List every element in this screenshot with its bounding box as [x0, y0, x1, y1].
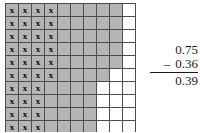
grid-cell-shaded — [45, 95, 58, 108]
grid-cell-shaded — [71, 4, 84, 17]
x-mark-icon: x — [32, 18, 44, 28]
grid-cell-marked: x — [6, 108, 19, 121]
grid-cell-marked: x — [19, 4, 32, 17]
grid-cell-marked: x — [32, 69, 45, 82]
grid-cell-marked: x — [6, 69, 19, 82]
x-mark-icon: x — [32, 109, 44, 119]
x-mark-icon: x — [6, 18, 18, 28]
x-mark-icon: x — [45, 44, 57, 54]
grid-row: xxxx — [6, 56, 136, 69]
grid-cell-shaded — [84, 4, 97, 17]
grid-cell-shaded — [71, 69, 84, 82]
grid-cell-marked: x — [45, 17, 58, 30]
grid-cell-shaded — [45, 108, 58, 121]
grid-cell-marked: x — [6, 43, 19, 56]
grid-cell-empty — [123, 121, 136, 133]
x-mark-icon: x — [45, 5, 57, 15]
grid-cell-shaded — [110, 4, 123, 17]
grid-cell-shaded — [84, 121, 97, 133]
x-mark-icon: x — [6, 83, 18, 93]
grid-cell-marked: x — [19, 82, 32, 95]
x-mark-icon: x — [32, 70, 44, 80]
decimal-subtraction-figure: xxxxxxxxxxxxxxxxxxxxxxxxxxxxxxxxxxxx 0.7… — [0, 0, 200, 132]
x-mark-icon: x — [45, 70, 57, 80]
grid-cell-shaded — [58, 95, 71, 108]
grid-cell-shaded — [71, 108, 84, 121]
grid-cell-marked: x — [32, 108, 45, 121]
grid-cell-marked: x — [19, 56, 32, 69]
grid-cell-shaded — [71, 82, 84, 95]
grid-cell-empty — [123, 69, 136, 82]
x-mark-icon: x — [32, 122, 44, 132]
grid-cell-shaded — [71, 95, 84, 108]
grid-cell-marked: x — [6, 4, 19, 17]
difference-row: 0.39 — [150, 74, 198, 88]
difference-value: 0.39 — [175, 74, 198, 88]
x-mark-icon: x — [6, 31, 18, 41]
grid-cell-marked: x — [6, 30, 19, 43]
grid-cell-shaded — [71, 56, 84, 69]
x-mark-icon: x — [6, 122, 18, 132]
grid-cell-shaded — [97, 69, 110, 82]
grid-cell-empty — [110, 121, 123, 133]
grid-cell-empty — [97, 95, 110, 108]
x-mark-icon: x — [45, 18, 57, 28]
grid-cell-marked: x — [45, 56, 58, 69]
grid-cell-marked: x — [32, 4, 45, 17]
x-mark-icon: x — [19, 109, 31, 119]
grid-cell-shaded — [71, 17, 84, 30]
grid-cell-shaded — [84, 17, 97, 30]
grid-cell-marked: x — [32, 43, 45, 56]
grid-row: xxx — [6, 95, 136, 108]
grid-cell-shaded — [45, 121, 58, 133]
grid-cell-empty — [110, 108, 123, 121]
grid-cell-shaded — [71, 30, 84, 43]
x-mark-icon: x — [6, 70, 18, 80]
grid-cell-empty — [123, 4, 136, 17]
subtrahend-row: – 0.36 — [150, 57, 198, 71]
grid-cell-marked: x — [6, 121, 19, 133]
grid-cell-empty — [123, 82, 136, 95]
grid-cell-marked: x — [6, 82, 19, 95]
x-mark-icon: x — [19, 96, 31, 106]
grid-cell-shaded — [58, 43, 71, 56]
x-mark-icon: x — [32, 96, 44, 106]
grid-cell-marked: x — [19, 121, 32, 133]
grid-cell-shaded — [58, 56, 71, 69]
grid-cell-shaded — [58, 17, 71, 30]
grid-cell-shaded — [84, 56, 97, 69]
x-mark-icon: x — [6, 109, 18, 119]
x-mark-icon: x — [19, 5, 31, 15]
grid-row: xxxx — [6, 4, 136, 17]
x-mark-icon: x — [6, 57, 18, 67]
grid-cell-marked: x — [45, 69, 58, 82]
minuend-value: 0.75 — [175, 43, 198, 57]
grid-cell-marked: x — [19, 17, 32, 30]
grid-cell-empty — [123, 17, 136, 30]
grid-cell-marked: x — [19, 108, 32, 121]
grid-cell-empty — [97, 82, 110, 95]
x-mark-icon: x — [6, 5, 18, 15]
grid-cell-shaded — [97, 43, 110, 56]
grid-cell-empty — [123, 56, 136, 69]
grid-cell-marked: x — [45, 4, 58, 17]
grid-cell-empty — [110, 82, 123, 95]
grid-cell-shaded — [84, 43, 97, 56]
subtrahend-value: 0.36 — [175, 57, 198, 71]
grid-cell-marked: x — [19, 30, 32, 43]
grid-cell-shaded — [84, 95, 97, 108]
grid-row: xxx — [6, 108, 136, 121]
x-mark-icon: x — [45, 57, 57, 67]
x-mark-icon: x — [19, 44, 31, 54]
grid-cell-shaded — [84, 108, 97, 121]
vertical-subtraction: 0.75 – 0.36 0.39 — [150, 43, 198, 88]
grid-cell-marked: x — [45, 30, 58, 43]
grid-cell-marked: x — [6, 17, 19, 30]
grid-cell-marked: x — [32, 30, 45, 43]
grid-cell-shaded — [58, 108, 71, 121]
grid-cell-shaded — [97, 17, 110, 30]
grid-cell-marked: x — [45, 43, 58, 56]
grid-cell-empty — [110, 69, 123, 82]
grid-cell-empty — [123, 43, 136, 56]
grid-cell-shaded — [58, 121, 71, 133]
